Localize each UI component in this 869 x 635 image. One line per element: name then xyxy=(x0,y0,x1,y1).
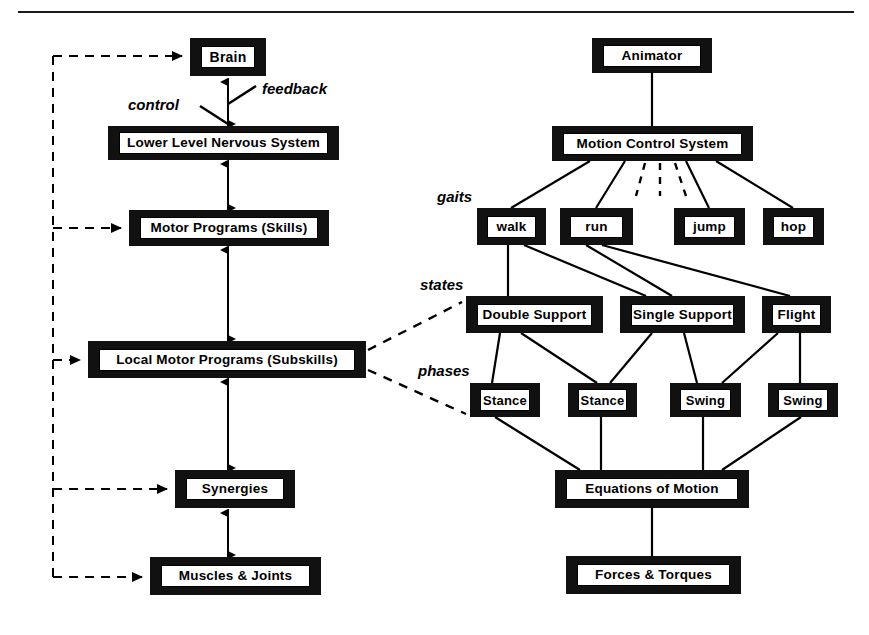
node-state-single-support[interactable]: Single Support xyxy=(620,296,745,333)
node-phase-stance-2[interactable]: Stance xyxy=(568,383,637,417)
node-gait-run-label: run xyxy=(570,216,623,238)
node-forces-and-torques-label: Forces & Torques xyxy=(577,564,730,586)
node-gait-walk[interactable]: walk xyxy=(477,208,546,245)
figure-canvas: Brain Lower Level Nervous System Motor P… xyxy=(0,0,869,635)
node-muscles-and-joints[interactable]: Muscles & Joints xyxy=(150,557,321,595)
annotation-control: control xyxy=(128,96,179,113)
node-muscles-and-joints-label: Muscles & Joints xyxy=(161,565,310,587)
node-motor-programs-skills[interactable]: Motor Programs (Skills) xyxy=(129,210,329,246)
leader-feedback xyxy=(228,86,256,104)
edge-stance1-eom xyxy=(495,417,580,470)
node-phase-stance-1-label: Stance xyxy=(480,389,530,411)
node-equations-of-motion-label: Equations of Motion xyxy=(566,478,738,500)
node-lower-level-nervous-system-label: Lower Level Nervous System xyxy=(119,132,328,154)
node-phase-stance-1[interactable]: Stance xyxy=(470,383,540,417)
node-state-flight-label: Flight xyxy=(772,304,821,326)
edge-double-stance1 xyxy=(492,333,500,383)
node-gait-jump-label: jump xyxy=(684,216,735,238)
node-animator[interactable]: Animator xyxy=(592,38,712,73)
annotation-feedback: feedback xyxy=(262,80,327,97)
state-to-phase-edges xyxy=(492,333,800,383)
edges-mcs-unspecified-gaits xyxy=(636,163,686,196)
annotation-states: states xyxy=(420,276,463,293)
node-phase-swing-1-label: Swing xyxy=(680,389,731,411)
node-motion-control-system-label: Motion Control System xyxy=(563,133,742,155)
edge-swing2-eom xyxy=(722,417,801,470)
edge-localmotor-to-states xyxy=(368,302,462,350)
edge-mcs-other-gait-3 xyxy=(675,163,686,196)
node-brain[interactable]: Brain xyxy=(190,38,266,76)
edge-single-swing1 xyxy=(684,333,697,383)
node-gait-hop-label: hop xyxy=(773,216,814,238)
edge-single-stance2 xyxy=(610,333,652,383)
node-state-flight[interactable]: Flight xyxy=(762,296,831,333)
node-state-double-support-label: Double Support xyxy=(477,304,592,326)
node-gait-run[interactable]: run xyxy=(560,208,633,245)
node-gait-hop[interactable]: hop xyxy=(763,208,824,245)
node-motion-control-system[interactable]: Motion Control System xyxy=(552,126,753,161)
node-phase-swing-2[interactable]: Swing xyxy=(768,383,838,417)
node-gait-walk-label: walk xyxy=(487,216,536,238)
node-lower-level-nervous-system[interactable]: Lower Level Nervous System xyxy=(108,126,339,160)
node-synergies-label: Synergies xyxy=(186,478,284,500)
node-phase-stance-2-label: Stance xyxy=(578,389,627,411)
edge-flight-swing1 xyxy=(722,333,778,383)
edge-mcs-other-gait-1 xyxy=(636,163,645,196)
node-animator-label: Animator xyxy=(603,45,701,67)
edge-mcs-hop xyxy=(716,161,793,208)
annotation-gaits: gaits xyxy=(437,188,472,205)
node-state-single-support-label: Single Support xyxy=(631,304,734,326)
annotation-phases: phases xyxy=(418,362,470,379)
node-equations-of-motion[interactable]: Equations of Motion xyxy=(555,470,749,508)
edge-mcs-run xyxy=(596,161,625,208)
subskill-mapping-edges xyxy=(368,302,466,414)
node-synergies[interactable]: Synergies xyxy=(175,470,295,508)
gait-to-state-edges xyxy=(508,245,790,296)
leader-control xyxy=(200,106,228,124)
edge-mcs-walk xyxy=(511,161,590,208)
node-local-motor-programs-subskills[interactable]: Local Motor Programs (Subskills) xyxy=(88,341,366,378)
edge-double-stance2 xyxy=(521,333,597,383)
edge-mcs-jump xyxy=(686,161,709,208)
node-phase-swing-2-label: Swing xyxy=(778,389,828,411)
node-brain-label: Brain xyxy=(201,46,255,68)
node-gait-jump[interactable]: jump xyxy=(674,208,745,245)
node-motor-programs-skills-label: Motor Programs (Skills) xyxy=(140,217,318,239)
node-local-motor-programs-subskills-label: Local Motor Programs (Subskills) xyxy=(99,349,355,371)
node-phase-swing-1[interactable]: Swing xyxy=(670,383,741,417)
node-state-double-support[interactable]: Double Support xyxy=(466,296,603,333)
node-forces-and-torques[interactable]: Forces & Torques xyxy=(566,556,741,594)
